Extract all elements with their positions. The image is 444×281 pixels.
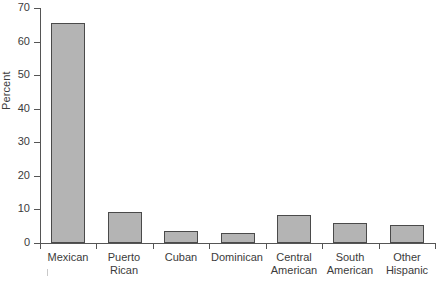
y-tick: 70: [34, 8, 40, 9]
plot-area: 010203040506070: [40, 8, 435, 243]
x-tick: [153, 243, 154, 249]
y-tick-label: 70: [18, 1, 30, 14]
y-tick-label: 10: [18, 202, 30, 215]
x-axis-line: [40, 243, 436, 244]
y-tick: 60: [34, 42, 40, 43]
y-tick-label: 20: [18, 169, 30, 182]
y-tick-label: 0: [24, 236, 30, 249]
x-category-label: South American: [322, 251, 378, 277]
bar: [333, 223, 367, 243]
x-tick: [379, 243, 380, 249]
x-tick: [322, 243, 323, 249]
x-tick: [40, 243, 41, 249]
bar: [390, 225, 424, 243]
x-tick: [209, 243, 210, 249]
y-axis-title: Percent: [0, 50, 14, 110]
y-tick: 40: [34, 109, 40, 110]
y-tick-label: 60: [18, 35, 30, 48]
bar: [164, 231, 198, 243]
scan-artifact-mark: [47, 269, 48, 276]
y-tick-label: 40: [18, 102, 30, 115]
y-tick: 20: [34, 176, 40, 177]
x-category-label: Central American: [266, 251, 322, 277]
x-category-label: Mexican: [40, 251, 96, 264]
x-category-label: Puerto Rican: [96, 251, 152, 277]
x-tick: [435, 243, 436, 249]
bar: [277, 215, 311, 243]
x-tick: [266, 243, 267, 249]
bar: [51, 23, 85, 243]
x-category-label: Cuban: [153, 251, 209, 264]
y-tick-label: 30: [18, 135, 30, 148]
y-tick: 50: [34, 75, 40, 76]
x-tick: [96, 243, 97, 249]
y-tick: 30: [34, 142, 40, 143]
y-tick-label: 50: [18, 68, 30, 81]
y-tick: 10: [34, 209, 40, 210]
x-category-label: Dominican: [209, 251, 265, 264]
bar-chart: Percent 010203040506070 MexicanPuerto Ri…: [0, 0, 444, 281]
bar: [108, 212, 142, 243]
x-category-label: Other Hispanic: [379, 251, 435, 277]
bar: [221, 233, 255, 243]
